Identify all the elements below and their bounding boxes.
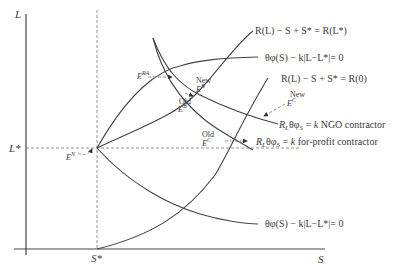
e-c-new-label: EC [286, 97, 297, 108]
r-lstar-curve [97, 31, 253, 148]
e-n-arrow [78, 149, 92, 155]
l-star-label: L* [8, 142, 21, 154]
e-ra-label: ERA [136, 70, 150, 81]
s-star-label: S* [91, 252, 103, 264]
y-axis-label: L [14, 8, 21, 20]
theta-lower-label: θφ(S) − k|L−L*|= 0 [265, 218, 343, 230]
e-n-label: EN [65, 151, 76, 162]
e-b-old-label: EB [177, 103, 187, 114]
x-axis-label: S [318, 253, 324, 265]
ngo-label: RLθφS = k NGO contractor [278, 119, 386, 132]
ngo-curve [153, 38, 278, 124]
forprofit-label: RLθφS = k for-profit contractor [255, 136, 378, 149]
e-c-old-label: EC [201, 137, 212, 148]
economics-diagram: L S L* S* R(L) − S + S* = R(L*) θφ(S) − … [0, 0, 397, 271]
e-b-new-arrow [185, 93, 193, 96]
e-b-new-label: EB [195, 83, 205, 94]
r-zero-label: R(L) − S + S* = R(0) [281, 73, 367, 85]
e-c-new-arrow [264, 104, 285, 116]
r-lstar-label: R(L) − S + S* = R(L*) [255, 25, 347, 37]
theta-upper-label: θφ(S) − k|L−L*|= 0 [265, 52, 343, 64]
theta-upper-curve [97, 57, 258, 148]
